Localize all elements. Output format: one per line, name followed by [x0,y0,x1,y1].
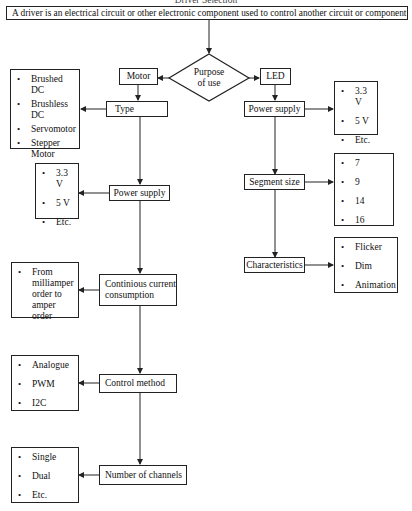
option-item: Analogue [18,360,74,371]
option-item: 5 V [42,198,74,209]
option-item: Single [18,452,74,463]
option-item: Etc. [18,490,74,501]
motor-type-node: Type [106,101,168,117]
motor-channels-options: Single Dual Etc. [11,447,79,503]
option-item: I2C [18,398,74,409]
option-item: 3.3 V [341,86,373,108]
option-item: 7 [341,158,389,169]
option-item: Animation [341,280,393,291]
option-item: Dim [341,261,393,272]
option-item: 3.3 V [42,168,74,190]
led-characteristics-options: Flicker Dim Animation [334,237,398,293]
option-item: 14 [341,196,389,207]
led-segment-size-node: Segment size [244,174,305,190]
motor-power-supply-options: 3.3 V 5 V Etc. [35,163,79,219]
led-node: LED [260,68,291,85]
definition-box: A driver is an electrical circuit or oth… [6,6,408,20]
option-item: Brushed DC [17,74,75,96]
option-item: PWM [18,379,74,390]
option-item: 5 V [341,116,373,127]
option-item: From milliamper order to amper order [18,267,74,322]
option-item: Etc. [42,217,74,228]
motor-current-options: From milliamper order to amper order [11,262,79,318]
diagram-title: Driver Selection [0,0,412,5]
motor-channels-node: Number of channels [99,465,187,485]
led-power-supply-options: 3.3 V 5 V Etc. [334,81,378,135]
decision-label-line1: Purpose [179,67,239,78]
led-power-supply-node: Power supply [244,101,305,117]
motor-control-method-options: Analogue PWM I2C [11,355,79,411]
option-item: Servomotor [17,124,75,135]
led-segment-size-options: 7 9 14 16 [334,153,394,226]
decision-label-line2: of use [179,78,239,89]
motor-type-options: Brushed DC Brushless DC Servomotor Stepp… [10,69,80,149]
option-item: Flicker [341,242,393,253]
option-item: Brushless DC [17,99,75,121]
motor-control-method-node: Control method [99,374,177,393]
motor-power-supply-node: Power supply [109,185,170,201]
motor-current-consumption-node: Continious current consumption [99,274,177,306]
option-item: Dual [18,471,74,482]
option-item: Stepper Motor [17,138,75,160]
option-item: 16 [341,215,389,226]
decision-label: Purpose of use [179,67,239,89]
led-characteristics-node: Characteristics [244,257,305,273]
option-item: Etc. [341,135,373,146]
motor-node: Motor [119,68,158,85]
option-item: 9 [341,177,389,188]
